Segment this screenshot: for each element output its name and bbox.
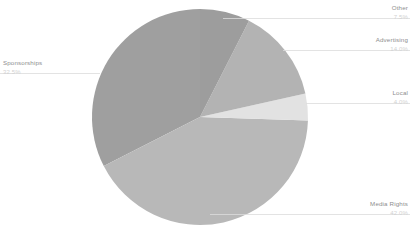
pie-label-other-percent: 7.5%	[392, 14, 408, 20]
pie-label-media-rights-percent: 42.0%	[370, 210, 408, 216]
pie-label-local-percent: 4.0%	[392, 99, 408, 105]
pie-label-sponsorships-percent: 32.5%	[3, 69, 42, 75]
pie-chart-figure: Other 7.5% Advertising 14.0% Local 4.0% …	[0, 0, 410, 229]
pie-label-local-name: Local	[392, 90, 408, 97]
pie-label-advertising-name: Advertising	[376, 37, 408, 44]
pie-label-sponsorships-name: Sponsorships	[3, 60, 42, 67]
pie-label-media-rights[interactable]: Media Rights 42.0%	[370, 201, 408, 216]
pie-label-advertising-percent: 14.0%	[376, 46, 408, 52]
pie-chart-canvas	[0, 0, 410, 229]
pie-label-media-rights-name: Media Rights	[370, 201, 408, 208]
pie-label-other-name: Other	[392, 5, 408, 12]
pie-label-sponsorships[interactable]: Sponsorships 32.5%	[3, 60, 42, 75]
pie-label-other[interactable]: Other 7.5%	[392, 5, 408, 20]
pie-slices	[92, 9, 308, 225]
pie-label-local[interactable]: Local 4.0%	[392, 90, 408, 105]
pie-label-advertising[interactable]: Advertising 14.0%	[376, 37, 408, 52]
